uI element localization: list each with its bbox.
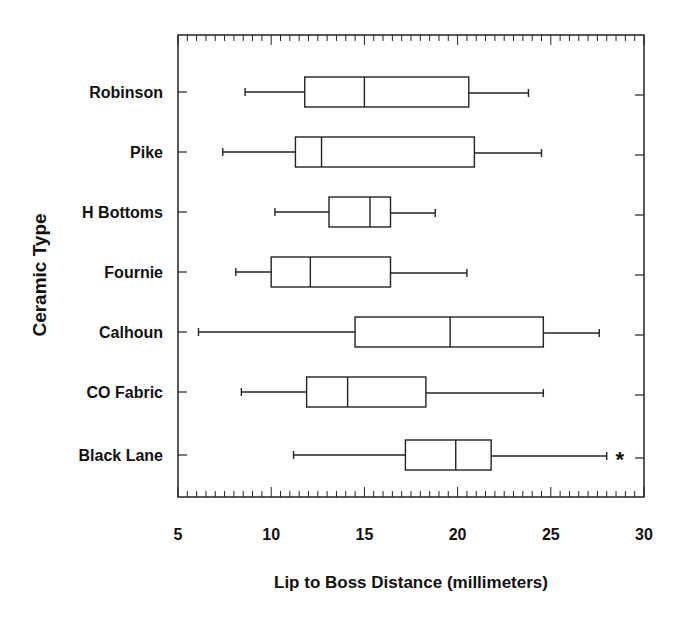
x-tick-label: 10 <box>262 526 280 543</box>
x-tick-label: 30 <box>635 526 653 543</box>
box-h-bottoms <box>275 197 435 227</box>
iqr-box <box>271 257 390 287</box>
outlier-marker: * <box>615 447 624 472</box>
boxes: * <box>199 77 625 472</box>
x-axis-title: Lip to Boss Distance (millimeters) <box>274 573 548 592</box>
box-fournie <box>236 257 467 287</box>
iqr-box <box>405 440 491 470</box>
box-calhoun <box>199 317 600 347</box>
x-tick-label: 15 <box>356 526 374 543</box>
x-axis-tick-labels: 51015202530 <box>174 526 653 543</box>
iqr-box <box>355 317 543 347</box>
box-co-fabric <box>241 377 543 407</box>
box-pike <box>223 137 542 167</box>
x-tick-label: 25 <box>542 526 560 543</box>
iqr-box <box>295 137 474 167</box>
y-axis-title: Ceramic Type <box>29 213 50 336</box>
y-category-label: CO Fabric <box>87 384 164 401</box>
box-robinson <box>245 77 528 107</box>
iqr-box <box>307 377 426 407</box>
x-tick-label: 5 <box>174 526 183 543</box>
y-category-label: Robinson <box>89 84 163 101</box>
iqr-box <box>329 197 391 227</box>
y-category-label: Black Lane <box>79 447 164 464</box>
y-axis-category-labels: RobinsonPikeH BottomsFournieCalhounCO Fa… <box>79 84 164 464</box>
y-category-label: H Bottoms <box>82 204 163 221</box>
x-tick-label: 20 <box>449 526 467 543</box>
y-category-label: Fournie <box>104 264 163 281</box>
iqr-box <box>305 77 469 107</box>
y-category-label: Calhoun <box>99 324 163 341</box>
box-black-lane: * <box>294 440 625 472</box>
y-category-label: Pike <box>130 144 163 161</box>
boxplot-chart: * RobinsonPikeH BottomsFournieCalhounCO … <box>0 0 686 622</box>
